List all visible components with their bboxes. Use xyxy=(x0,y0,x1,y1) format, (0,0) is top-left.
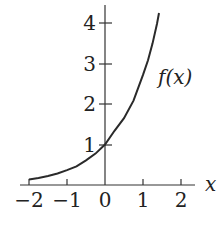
y-tick-label: 2 xyxy=(83,92,96,116)
x-tick-label: −2 xyxy=(14,188,43,212)
x-tick-label: 2 xyxy=(175,188,188,212)
y-tick-label: 4 xyxy=(83,11,96,35)
x-tick-label: 0 xyxy=(99,188,112,212)
curve-label: f(x) xyxy=(156,65,192,89)
y-tick-label: 3 xyxy=(83,52,96,76)
x-axis-label: x xyxy=(205,172,216,196)
x-tick-label: −1 xyxy=(52,188,81,212)
y-tick-label: 1 xyxy=(83,133,96,157)
x-tick-label: 1 xyxy=(137,188,150,212)
chart: −2 −1 0 1 2 1 2 3 4 x f(x) xyxy=(0,0,222,229)
